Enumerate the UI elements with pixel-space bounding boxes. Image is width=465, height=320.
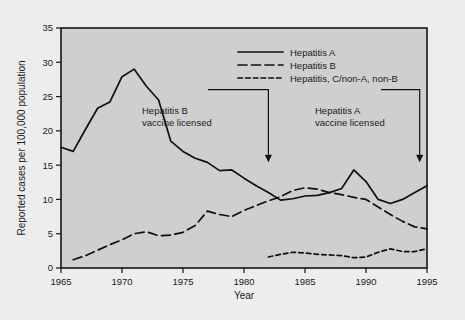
x-tick-label: 1990 xyxy=(355,276,376,287)
plot-area-background xyxy=(61,28,427,268)
x-tick-label: 1980 xyxy=(233,276,254,287)
x-tick-label: 1970 xyxy=(111,276,132,287)
x-tick-label: 1995 xyxy=(416,276,437,287)
y-tick-label: 30 xyxy=(42,57,53,68)
figure-card: 05101520253035 1965197019751980198519901… xyxy=(11,9,454,306)
y-axis-title: Reported cases per 100,000 population xyxy=(16,60,27,235)
hepatitis-incidence-chart: 05101520253035 1965197019751980198519901… xyxy=(11,9,454,306)
annotation-hep-b-line2: vaccine licensed xyxy=(142,117,212,128)
y-tick-label: 0 xyxy=(48,262,53,273)
y-tick-label: 25 xyxy=(42,91,53,102)
x-axis-ticks: 1965197019751980198519901995 xyxy=(50,268,437,287)
legend-label-hepatitis-b: Hepatitis B xyxy=(290,60,336,71)
x-axis-title: Year xyxy=(234,290,255,301)
y-tick-label: 20 xyxy=(42,125,53,136)
annotation-hep-a-line1: Hepatitis A xyxy=(315,105,361,116)
annotation-hep-b-line1: Hepatitis B xyxy=(142,105,188,116)
y-tick-label: 35 xyxy=(42,22,53,33)
y-axis-ticks: 05101520253035 xyxy=(42,22,61,273)
y-tick-label: 5 xyxy=(48,228,53,239)
legend-label-hepatitis-c: Hepatitis, C/non-A, non-B xyxy=(290,73,398,84)
x-tick-label: 1965 xyxy=(50,276,71,287)
x-tick-label: 1985 xyxy=(294,276,315,287)
annotation-hep-a-line2: vaccine licensed xyxy=(315,117,385,128)
legend-label-hepatitis-a: Hepatitis A xyxy=(290,47,336,58)
x-tick-label: 1975 xyxy=(172,276,193,287)
y-tick-label: 15 xyxy=(42,160,53,171)
y-tick-label: 10 xyxy=(42,194,53,205)
